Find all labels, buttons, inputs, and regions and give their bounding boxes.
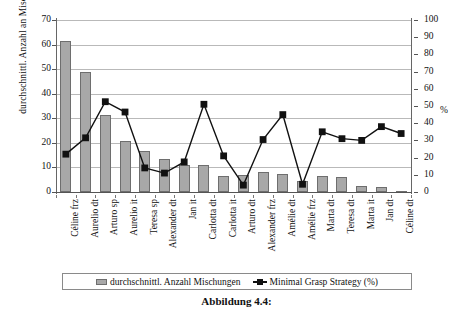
line-marker — [378, 123, 385, 130]
bar-swatch-icon — [96, 279, 107, 285]
x-tick-mark — [312, 195, 313, 198]
line-marker — [319, 128, 326, 135]
line-marker — [62, 151, 69, 158]
y-tick-label-right: 80 — [424, 49, 434, 59]
y-axis-right-unit-label: % — [440, 105, 448, 115]
x-tick-mark — [391, 195, 392, 198]
legend-label-bars: durchschnittl. Anzahl Mischungen — [110, 277, 241, 287]
x-tick-label: Carlotta it — [228, 199, 238, 237]
line-marker — [220, 152, 227, 159]
x-tick-label: Amélie dt — [287, 199, 297, 237]
y-tick-label-right: 90 — [424, 32, 434, 42]
line-marker — [260, 136, 267, 143]
chart-area: durchschnittl. Anzahl an Mischungen 0102… — [0, 0, 473, 272]
x-tick-label: Teresa sp — [149, 199, 159, 234]
x-tick-mark — [411, 195, 412, 198]
x-tick-label: Jan dt — [385, 199, 395, 221]
x-tick-mark — [234, 195, 235, 198]
x-tick-mark — [56, 195, 57, 198]
y-tick-mark-right — [414, 54, 418, 55]
x-tick-mark — [194, 195, 195, 198]
x-tick-mark — [293, 195, 294, 198]
line-marker — [181, 159, 188, 166]
y-tick-label-left: 10 — [42, 162, 52, 172]
x-tick-mark — [372, 195, 373, 198]
line-marker — [102, 98, 109, 105]
y-tick-label-left: 50 — [42, 64, 52, 74]
y-tick-label-right: 0 — [424, 187, 429, 197]
line-marker — [161, 170, 168, 177]
x-tick-label: Marta it — [366, 199, 376, 229]
plot-border-right — [411, 18, 412, 194]
x-tick-mark — [95, 195, 96, 198]
x-tick-label: Alexander dt — [168, 199, 178, 248]
y-tick-label-right: 70 — [424, 67, 434, 77]
y-tick-mark-right — [414, 123, 418, 124]
chart-legend: durchschnittl. Anzahl Mischungen Minimal… — [62, 273, 412, 290]
x-tick-label: Arturo dt — [247, 199, 257, 234]
line-marker — [82, 134, 89, 141]
y-tick-label-right: 40 — [424, 118, 434, 128]
y-tick-label-right: 100 — [424, 15, 438, 25]
y-tick-label-right: 30 — [424, 135, 434, 145]
line-marker — [201, 101, 208, 108]
legend-item-bars: durchschnittl. Anzahl Mischungen — [96, 277, 241, 287]
x-tick-label: Arturo sp — [109, 199, 119, 235]
x-tick-mark — [115, 195, 116, 198]
line-marker — [339, 135, 346, 142]
line-marker — [358, 137, 365, 144]
x-tick-label: Céline frz — [70, 199, 80, 237]
line-marker — [279, 111, 286, 118]
line-square-marker-icon — [253, 278, 267, 285]
y-tick-mark-right — [414, 140, 418, 141]
x-tick-mark — [214, 195, 215, 198]
y-tick-label-left: 0 — [46, 187, 51, 197]
line-marker — [398, 130, 405, 137]
x-tick-label: Aurelio dt — [90, 199, 100, 238]
y-tick-label-right: 60 — [424, 84, 434, 94]
line-marker — [141, 165, 148, 172]
y-tick-label-right: 10 — [424, 170, 434, 180]
y-tick-mark-right — [414, 72, 418, 73]
x-tick-mark — [76, 195, 77, 198]
x-tick-mark — [135, 195, 136, 198]
y-tick-mark-right — [414, 20, 418, 21]
x-tick-label: Céline dt — [405, 199, 415, 234]
x-tick-label: Aurelio it — [129, 199, 139, 236]
y-tick-label-left: 30 — [42, 113, 52, 123]
legend-label-line: Minimal Grasp Strategy (%) — [270, 277, 378, 287]
x-tick-mark — [352, 195, 353, 198]
y-tick-mark-right — [414, 37, 418, 38]
x-tick-label: Jan it — [188, 199, 198, 219]
x-tick-mark — [155, 195, 156, 198]
line-marker — [299, 181, 306, 188]
figure-caption: Abbildung 4.4: — [0, 295, 473, 307]
x-tick-label: Amélie frz — [307, 199, 317, 240]
x-tick-mark — [174, 195, 175, 198]
x-axis-baseline — [56, 192, 412, 193]
y-axis-left-ticks: 010203040506070 — [20, 20, 51, 192]
y-tick-label-left: 40 — [42, 89, 52, 99]
y-tick-mark-right — [414, 158, 418, 159]
y-tick-label-left: 20 — [42, 138, 52, 148]
y-tick-mark-right — [414, 175, 418, 176]
y-tick-mark-right — [414, 89, 418, 90]
line-series — [56, 20, 411, 192]
x-tick-label: Marta dt — [326, 199, 336, 231]
figure-container: durchschnittl. Anzahl an Mischungen 0102… — [0, 0, 473, 317]
line-marker — [240, 182, 247, 189]
y-tick-label-right: 50 — [424, 101, 434, 111]
x-axis-labels: Céline frzAurelio dtArturo spAurelio itT… — [56, 195, 411, 270]
line-path — [66, 102, 401, 185]
legend-item-line: Minimal Grasp Strategy (%) — [253, 277, 378, 287]
x-tick-label: Carlotta dt — [208, 199, 218, 239]
line-marker — [122, 109, 129, 116]
y-tick-label-left: 60 — [42, 40, 52, 50]
y-tick-mark-right — [414, 106, 418, 107]
x-tick-label: Teresa dt — [346, 199, 356, 233]
y-tick-mark-right — [414, 192, 418, 193]
x-tick-mark — [253, 195, 254, 198]
y-tick-label-left: 70 — [42, 15, 52, 25]
x-tick-label: Alexander frz — [267, 199, 277, 251]
x-tick-mark — [332, 195, 333, 198]
